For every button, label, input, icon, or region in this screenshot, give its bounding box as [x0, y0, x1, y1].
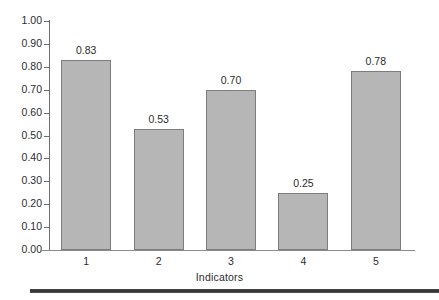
bar-value-label: 0.78 [366, 56, 386, 67]
y-axis-tick-label: 0.40 [0, 158, 42, 159]
plot-area: 0.830.530.700.250.78 [50, 21, 412, 250]
bar-value-label: 0.83 [76, 45, 96, 56]
bar [206, 90, 256, 250]
x-axis-tick-label: 5 [373, 256, 379, 267]
x-axis-tick-label: 2 [156, 256, 162, 267]
y-axis-tick-label: 1.00 [0, 21, 42, 22]
y-axis-tick-label: 0.70 [0, 90, 42, 91]
y-axis-tick-label: 0.50 [0, 136, 42, 137]
bar [278, 193, 328, 250]
bar [351, 71, 401, 250]
bottom-rule-artifact [30, 289, 439, 293]
y-axis-tick-label: 0.00 [0, 250, 42, 251]
y-axis-tick-label: 0.90 [0, 44, 42, 45]
bar [134, 129, 184, 250]
bar-value-label: 0.70 [221, 75, 241, 86]
x-axis-tick-label: 1 [83, 256, 89, 267]
y-axis-tick-label: 0.20 [0, 204, 42, 205]
y-axis-tick-label: 0.60 [0, 113, 42, 114]
bar-value-label: 0.53 [148, 114, 168, 125]
x-axis-tick-label: 4 [300, 256, 306, 267]
x-axis-title: Indicators [0, 272, 439, 283]
y-axis-tick-label: 0.10 [0, 227, 42, 228]
bar-value-label: 0.25 [293, 178, 313, 189]
bar [61, 60, 111, 250]
y-axis-tick-label: 0.80 [0, 67, 42, 68]
x-axis-line [40, 250, 415, 251]
y-axis-tick-label: 0.30 [0, 181, 42, 182]
bar-chart-figure: 1.000.900.800.700.600.500.400.300.200.10… [0, 0, 439, 300]
x-axis-tick-label: 3 [228, 256, 234, 267]
